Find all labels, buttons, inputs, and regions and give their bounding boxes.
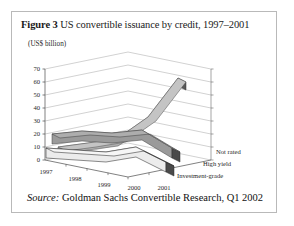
x-label-1999: 1999 xyxy=(97,181,111,188)
figure-number: Figure 3 xyxy=(21,19,58,30)
x-label-1997: 1997 xyxy=(39,168,53,175)
figure-title: Figure 3 US convertible issuance by cred… xyxy=(21,19,271,30)
x-label-2000: 2000 xyxy=(127,184,141,190)
source-label: Source: xyxy=(27,192,59,203)
area-chart-3d: 70 60 50 40 30 20 10 0 xyxy=(12,38,276,190)
x-label-2001: 2001 xyxy=(157,184,170,190)
y-tick-70: 70 xyxy=(33,65,40,72)
x-axis-labels: 1997 1998 1999 2000 2001 xyxy=(39,168,170,190)
y-axis: 70 60 50 40 30 20 10 0 xyxy=(33,65,45,163)
y-tick-50: 50 xyxy=(33,91,40,98)
legend-item-investment-grade: Investment-grade xyxy=(177,172,223,179)
chart-gridlines xyxy=(45,52,211,160)
chart-legend: Not rated High yield Investment-grade xyxy=(177,148,241,179)
legend-item-high-yield: High yield xyxy=(203,160,232,167)
y-tick-10: 10 xyxy=(33,143,40,150)
y-tick-60: 60 xyxy=(33,78,40,85)
figure-caption: US convertible issuance by credit, 1997–… xyxy=(60,19,249,30)
y-tick-20: 20 xyxy=(33,130,40,137)
y-tick-40: 40 xyxy=(33,104,40,111)
figure-panel: Figure 3 US convertible issuance by cred… xyxy=(11,11,277,213)
series-not-rated xyxy=(58,78,186,154)
chart-canvas: 70 60 50 40 30 20 10 0 xyxy=(12,38,276,190)
y-tick-30: 30 xyxy=(33,117,40,124)
y-tick-0: 0 xyxy=(37,156,41,163)
legend-item-not-rated: Not rated xyxy=(216,148,241,155)
y-axis-right xyxy=(211,69,214,160)
source-text: Goldman Sachs Convertible Research, Q1 2… xyxy=(59,192,263,203)
figure-source: Source: Goldman Sachs Convertible Resear… xyxy=(27,192,263,203)
x-label-1998: 1998 xyxy=(68,175,82,182)
